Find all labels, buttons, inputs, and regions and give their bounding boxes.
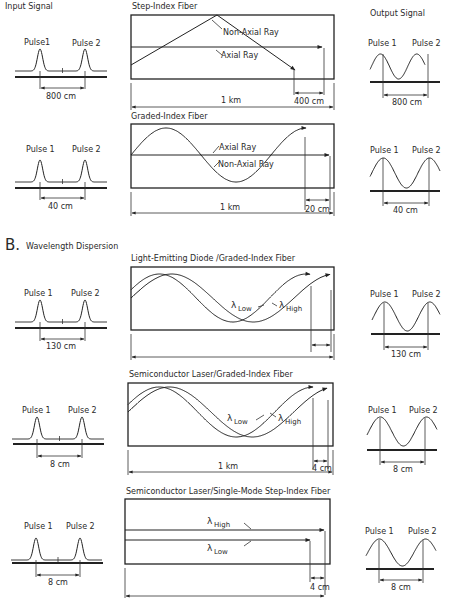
- input-pulse-trace: [12, 417, 104, 439]
- leader-low: [244, 541, 251, 546]
- pulse2-label: Pulse 2: [412, 146, 441, 155]
- pulse1-label: Pulse 1: [365, 527, 394, 536]
- delay-label: 4 cm: [310, 583, 330, 592]
- lambda-low-subscript: Low: [214, 548, 228, 556]
- lambda-symbol: λ: [278, 413, 284, 423]
- output-spacing-label: 40 cm: [393, 206, 418, 215]
- length-label: 1 km: [220, 203, 240, 212]
- lambda-symbol: λ: [207, 516, 213, 526]
- pulse1-label: Pulse 1: [370, 146, 399, 155]
- pulse1-label: Pulse1: [24, 38, 50, 47]
- input-spacing-label: 130 cm: [46, 342, 76, 351]
- output-signal-panel: Pulse 1 Pulse 2 8 cm: [365, 527, 437, 592]
- fiber-panel: Graded-Index Fiber Axial Ray Non-Axial R…: [131, 112, 334, 216]
- fiber-title: Semiconductor Laser/Single-Mode Step-Ind…: [126, 487, 331, 496]
- input-spacing-label: 8 cm: [50, 460, 70, 469]
- pulse2-label: Pulse 2: [66, 522, 95, 531]
- lambda-symbol: λ: [207, 543, 213, 553]
- fiber-panel: Step-Index Fiber Non-Axial Ray Axial Ray…: [131, 2, 334, 110]
- output-pulse-trace: [370, 54, 425, 79]
- fiber-panel: Light-Emitting Diode /Graded-Index Fiber…: [131, 254, 334, 360]
- pulse1-label: Pulse 1: [368, 406, 397, 415]
- lambda-high-ray: [128, 387, 327, 437]
- row-step-index: Pulse1 Pulse 2 800 cm Step-Index Fiber N…: [15, 2, 441, 110]
- fiber-box: [131, 124, 334, 188]
- fiber-title: Semiconductor Laser/Graded-Index Fiber: [129, 370, 293, 379]
- input-signal-panel: Pulse 1 Pulse 2 40 cm: [15, 145, 107, 211]
- output-signal-panel: Pulse 1 Pulse 2 800 cm: [368, 39, 441, 107]
- input-signal-panel: Pulse 1 Pulse 2 8 cm: [12, 406, 104, 469]
- pulse2-label: Pulse 2: [412, 39, 441, 48]
- output-signal-panel: Pulse 1 Pulse 2 40 cm: [370, 146, 441, 215]
- row-graded-index: Pulse 1 Pulse 2 40 cm Graded-Index Fiber…: [15, 112, 441, 216]
- row-led-graded-index: Pulse 1 Pulse 2 130 cm Light-Emitting Di…: [15, 254, 441, 360]
- axial-ray-label: Axial Ray: [221, 51, 258, 60]
- pulse1-label: Pulse 1: [370, 290, 399, 299]
- input-spacing-label: 800 cm: [46, 92, 76, 101]
- fiber-panel: Semiconductor Laser/Single-Mode Step-Ind…: [125, 487, 331, 598]
- pulse1-label: Pulse 1: [368, 39, 397, 48]
- non-axial-ray-label: Non-Axial Ray: [218, 160, 274, 169]
- input-pulse-trace: [15, 49, 107, 71]
- fiber-title: Light-Emitting Diode /Graded-Index Fiber: [131, 254, 296, 263]
- output-pulse-trace: [367, 417, 437, 446]
- input-pulse-trace: [15, 160, 107, 182]
- lambda-high-subscript: High: [286, 305, 302, 313]
- pulse2-label: Pulse 2: [412, 290, 441, 299]
- pulse2-label: Pulse 2: [68, 406, 97, 415]
- section-b-title: Wavelength Dispersion: [26, 242, 118, 251]
- input-signal-title: Input Signal: [5, 2, 53, 11]
- lambda-symbol: λ: [227, 413, 233, 423]
- input-spacing-label: 40 cm: [48, 202, 73, 211]
- input-pulse-trace: [15, 300, 107, 322]
- lambda-low-subscript: Low: [234, 418, 248, 426]
- lambda-high-ray: [131, 274, 330, 322]
- output-pulse-trace: [372, 302, 440, 331]
- fiber-panel: Semiconductor Laser/Graded-Index Fiber λ…: [128, 370, 333, 475]
- pulse1-label: Pulse 1: [22, 406, 51, 415]
- lambda-low-ray: [131, 274, 310, 322]
- lambda-symbol: λ: [231, 300, 237, 310]
- pulse1-label: Pulse 1: [26, 145, 55, 154]
- row-laser-graded-index: Pulse 1 Pulse 2 8 cm Semiconductor Laser…: [12, 370, 438, 475]
- output-signal-panel: Pulse 1 Pulse 2 130 cm: [370, 290, 441, 359]
- delay-label: 400 cm: [294, 97, 324, 106]
- lambda-symbol: λ: [279, 300, 285, 310]
- pulse1-label: Pulse 1: [24, 289, 53, 298]
- input-signal-panel: Pulse 1 Pulse 2 130 cm: [15, 289, 107, 351]
- row-laser-single-mode: Pulse 1 Pulse 2 8 cm Semiconductor Laser…: [11, 487, 437, 598]
- section-b-letter: B.: [5, 236, 20, 254]
- lambda-low-label: λ Low: [227, 413, 248, 426]
- fiber-dispersion-diagram: Input Signal Output Signal B. Wavelength…: [0, 0, 449, 601]
- lambda-low-label: λ Low: [207, 543, 228, 556]
- input-spacing-label: 8 cm: [48, 578, 68, 587]
- pulse2-label: Pulse 2: [72, 39, 101, 48]
- output-spacing-label: 8 cm: [393, 465, 413, 474]
- output-signal-title: Output Signal: [370, 9, 425, 18]
- lambda-high-subscript: High: [285, 418, 301, 426]
- output-spacing-label: 800 cm: [392, 98, 422, 107]
- length-label: 1 km: [221, 96, 241, 105]
- fiber-box: [131, 267, 334, 330]
- lambda-low-subscript: Low: [238, 305, 252, 313]
- fiber-title: Step-Index Fiber: [132, 2, 198, 11]
- leader-high: [272, 303, 277, 306]
- leader-low: [256, 415, 264, 420]
- leader-non-axial: [212, 20, 222, 29]
- non-axial-ray: [131, 15, 295, 70]
- output-pulse-trace: [370, 158, 440, 188]
- input-pulse-trace: [11, 538, 102, 560]
- lambda-high-subscript: High: [214, 521, 230, 529]
- non-axial-ray-label: Non-Axial Ray: [223, 28, 279, 37]
- length-label: 1 km: [218, 462, 238, 471]
- pulse2-label: Pulse 2: [409, 406, 438, 415]
- leader-high: [244, 523, 251, 529]
- axial-ray-label: Axial Ray: [219, 143, 256, 152]
- pulse1-label: Pulse 1: [24, 522, 53, 531]
- pulse2-label: Pulse 2: [408, 527, 437, 536]
- input-signal-panel: Pulse 1 Pulse 2 8 cm: [11, 522, 103, 587]
- pulse2-label: Pulse 2: [71, 289, 100, 298]
- output-pulse-trace: [366, 539, 436, 566]
- input-signal-panel: Pulse1 Pulse 2 800 cm: [15, 38, 107, 101]
- lambda-low-label: λ Low: [231, 300, 252, 313]
